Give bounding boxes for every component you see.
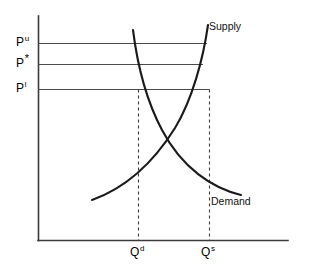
demand-curve [133, 30, 241, 195]
chart-canvas [0, 0, 322, 265]
price-label-equilibrium: P* [16, 57, 29, 69]
supply-curve [92, 25, 208, 200]
quantity-label-supplied-base: Q [201, 245, 211, 259]
price-label-equilibrium-superscript: * [25, 52, 29, 64]
price-label-upper: Pu [16, 36, 29, 48]
price-label-equilibrium-base: P [16, 56, 24, 70]
price-label-upper-superscript: u [25, 34, 30, 43]
quantity-label-supplied-superscript: s [211, 244, 215, 253]
quantity-label-demanded-superscript: d [140, 244, 145, 253]
price-label-upper-base: P [16, 35, 24, 49]
price-label-lower-base: P [16, 81, 24, 95]
quantity-label-demanded-base: Q [130, 245, 140, 259]
price-label-lower: Pl [16, 82, 27, 94]
demand-curve-label: Demand [211, 196, 251, 207]
quantity-label-demanded: Qd [130, 246, 145, 258]
quantity-label-supplied: Qs [201, 246, 215, 258]
price-label-lower-superscript: l [25, 80, 27, 89]
supply-curve-label: Supply [209, 21, 241, 32]
supply-demand-diagram: Pu P* Pl Qd Qs Supply Demand [0, 0, 322, 265]
